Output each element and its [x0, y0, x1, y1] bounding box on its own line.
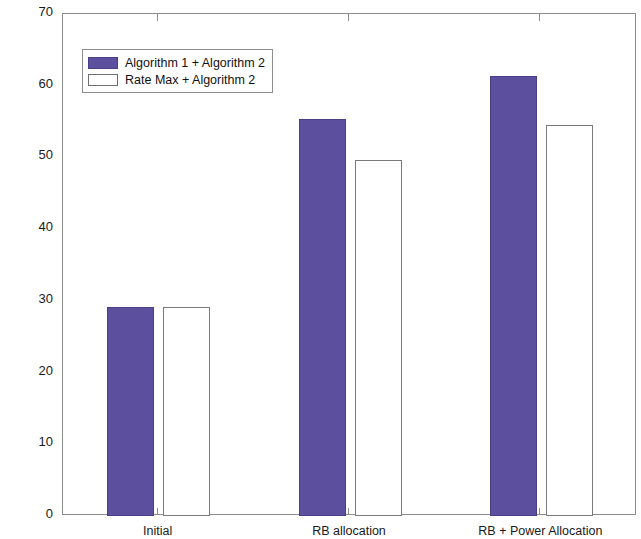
- legend-label: Algorithm 1 + Algorithm 2: [125, 56, 265, 70]
- bar: [163, 307, 210, 516]
- bar: [546, 125, 593, 516]
- bar: [355, 160, 402, 516]
- x-axis-tick-label: RB + Power Allocation: [440, 524, 640, 538]
- bar-chart-figure: Number of Users 010203040506070 InitialR…: [0, 0, 641, 539]
- x-axis-tick-mark-top: [539, 14, 540, 21]
- y-axis-tick-label: 60: [0, 76, 53, 91]
- x-axis-tick-mark: [348, 508, 349, 515]
- y-axis-tick-label: 10: [0, 434, 53, 449]
- x-axis-tick-mark: [539, 508, 540, 515]
- y-axis-tick-label: 40: [0, 219, 53, 234]
- legend-item: Algorithm 1 + Algorithm 2: [88, 54, 265, 71]
- x-axis-tick-mark-top: [348, 14, 349, 21]
- y-axis-tick-label: 30: [0, 291, 53, 306]
- y-axis-tick-label: 0: [0, 506, 53, 521]
- x-axis-tick-label: Initial: [58, 524, 258, 538]
- legend-item: Rate Max + Algorithm 2: [88, 71, 265, 88]
- legend-swatch: [88, 57, 118, 69]
- y-axis-tick-label: 50: [0, 147, 53, 162]
- y-axis-tick-label: 70: [0, 4, 53, 19]
- bar: [107, 307, 154, 516]
- bar: [490, 76, 537, 516]
- x-axis-tick-mark-top: [157, 14, 158, 21]
- bar: [299, 119, 346, 516]
- legend-swatch: [88, 74, 118, 86]
- legend: Algorithm 1 + Algorithm 2Rate Max + Algo…: [82, 49, 273, 93]
- x-axis-tick-mark: [157, 508, 158, 515]
- y-axis-tick-label: 20: [0, 363, 53, 378]
- legend-label: Rate Max + Algorithm 2: [125, 73, 255, 87]
- x-axis-tick-label: RB allocation: [249, 524, 449, 538]
